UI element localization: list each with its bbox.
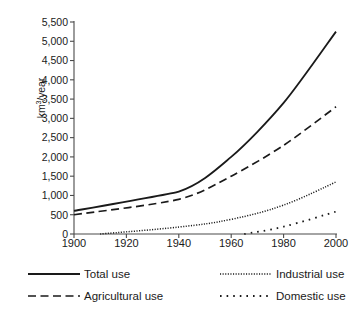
x-axis-tick-label: 1900 <box>51 238 97 249</box>
y-axis-tick-label: 1,000 <box>42 190 68 201</box>
series-line-agricultural-use <box>74 107 336 215</box>
water-use-line-chart: km3/year 05001,0001,5002,0002,5003,0003,… <box>0 0 363 312</box>
y-axis-tick-label: 5,000 <box>42 36 68 47</box>
legend-entry[interactable]: Total use <box>27 264 130 284</box>
x-axis-tick-label: 1920 <box>103 238 149 249</box>
y-axis-tick-label: 2,000 <box>42 152 68 163</box>
legend-entry[interactable]: Industrial use <box>219 264 344 284</box>
axes <box>70 21 337 238</box>
legend-entry[interactable]: Agricultural use <box>27 286 163 306</box>
y-axis-tick-label: 3,500 <box>42 94 68 105</box>
legend-line-sample <box>27 267 81 281</box>
y-axis-tick-label: 3,000 <box>42 113 68 124</box>
legend-label: Total use <box>81 268 130 280</box>
legend-line-sample <box>219 289 273 303</box>
y-axis-tick-label: 500 <box>50 210 68 221</box>
series-line-total-use <box>74 32 336 211</box>
chart-legend: Total useIndustrial useAgricultural useD… <box>27 264 357 308</box>
x-axis-tick-label: 1940 <box>156 238 202 249</box>
y-axis-tick-label: 2,500 <box>42 132 68 143</box>
legend-entry[interactable]: Domestic use <box>219 286 346 306</box>
legend-label: Industrial use <box>273 268 344 280</box>
y-axis-tick-label: 1,500 <box>42 171 68 182</box>
legend-line-sample <box>219 267 273 281</box>
series-line-industrial-use <box>100 182 336 234</box>
data-series <box>74 32 336 234</box>
y-axis-tick-label: 4,000 <box>42 75 68 86</box>
x-axis-tick-label: 1960 <box>208 238 254 249</box>
y-axis-tick-label: 5,500 <box>42 17 68 28</box>
x-axis-tick-label: 1980 <box>261 238 307 249</box>
y-axis-tick-label: 4,500 <box>42 55 68 66</box>
legend-label: Domestic use <box>273 290 346 302</box>
x-axis-tick-label: 2000 <box>313 238 359 249</box>
x-axis-tick-labels: 190019201940196019802000 <box>0 238 363 252</box>
legend-label: Agricultural use <box>81 290 163 302</box>
legend-line-sample <box>27 289 81 303</box>
series-line-domestic-use <box>244 212 336 234</box>
